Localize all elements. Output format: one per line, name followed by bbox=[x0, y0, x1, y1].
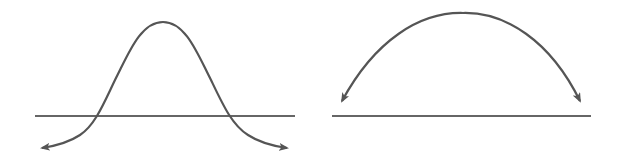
bell-curve-right-arrow-icon bbox=[163, 22, 287, 148]
arc-right-arrow-icon bbox=[463, 13, 580, 101]
diagram-canvas bbox=[0, 0, 617, 159]
arc-diagram bbox=[332, 13, 591, 116]
arc-left-arrow-icon bbox=[342, 13, 463, 101]
bell-curve-diagram bbox=[35, 22, 295, 148]
bell-curve-left-arrow-icon bbox=[42, 22, 163, 148]
